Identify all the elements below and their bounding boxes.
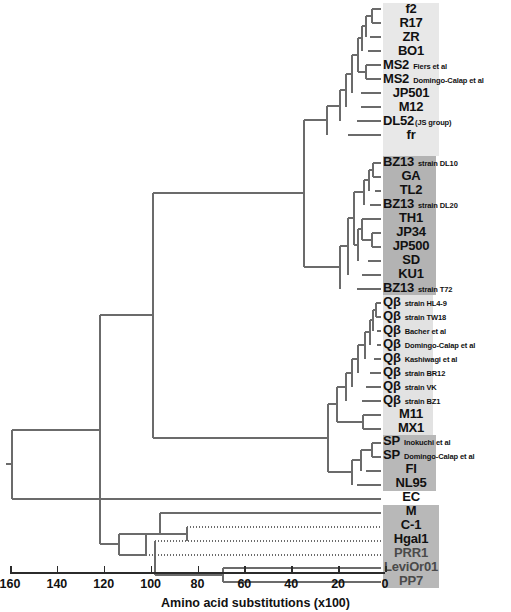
taxon-row: SPDomingo-Calap et al: [383, 448, 475, 462]
taxon-row: M12: [383, 100, 439, 114]
taxon-row: BZ13strain T72: [383, 281, 452, 295]
taxon-row: SPInokuchi et al: [383, 434, 450, 448]
axis-title: Amino acid substitutions (x100): [0, 596, 511, 610]
taxon-row: QβBacher et al: [383, 323, 446, 337]
taxon-row: JP501: [383, 86, 439, 100]
taxon-row: NL95: [383, 476, 439, 490]
taxon-name: MX1: [398, 421, 424, 435]
taxon-name: BZ13: [383, 281, 414, 295]
taxon-row: LeviOr01: [383, 560, 439, 574]
taxon-row: BO1: [383, 44, 439, 58]
axis-tick-label: 40: [284, 577, 298, 591]
taxon-row: M: [383, 504, 439, 518]
taxon-name: PRR1: [394, 546, 428, 560]
axis-tick: [385, 566, 387, 572]
taxon-name: KU1: [398, 267, 423, 281]
taxon-name: JP500: [393, 239, 430, 253]
taxon-name: Qβ: [383, 351, 401, 365]
taxon-name: SD: [402, 253, 420, 267]
taxon-row: M11: [383, 407, 439, 421]
taxon-row: TL2: [383, 183, 439, 197]
taxon-name: NL95: [396, 476, 427, 490]
taxon-row: SD: [383, 253, 439, 267]
axis-tick: [151, 566, 153, 572]
taxon-name: Qβ: [383, 337, 401, 351]
taxon-row: QβKashiwagi et al: [383, 351, 457, 365]
taxon-row: MS2Domingo-Calap et al: [383, 72, 484, 86]
taxon-name: EC: [402, 490, 420, 504]
taxon-name: SP: [383, 448, 400, 462]
taxon-name: BZ13: [383, 197, 414, 211]
taxon-name: M12: [399, 100, 424, 114]
axis-tick-label: 140: [46, 577, 67, 591]
taxon-name: Qβ: [383, 393, 401, 407]
taxon-name: fr: [407, 128, 416, 142]
taxon-row: Qβstrain VK: [383, 379, 437, 393]
taxon-name: ZR: [403, 30, 420, 44]
taxon-name: TL2: [400, 183, 423, 197]
taxon-name: JP501: [393, 86, 430, 100]
taxon-name: R17: [399, 16, 422, 30]
taxon-row: R17: [383, 16, 439, 30]
phylogenetic-tree-figure: f2R17ZRBO1MS2Fiers et alMS2Domingo-Calap…: [0, 0, 511, 612]
taxon-name: PP7: [399, 574, 423, 588]
taxon-name: FI: [405, 462, 416, 476]
taxon-name: BZ13: [383, 155, 414, 169]
taxon-row: ZR: [383, 30, 439, 44]
taxon-row: Qβstrain TW18: [383, 309, 446, 323]
taxon-name: f2: [405, 2, 416, 16]
taxon-row: fr: [383, 128, 439, 142]
axis-tick-label: 80: [191, 577, 205, 591]
taxon-name: GA: [401, 169, 420, 183]
taxon-row: JP34: [383, 225, 439, 239]
taxon-row: Qβstrain BR12: [383, 365, 445, 379]
taxon-row: Qβstrain BZ1: [383, 393, 440, 407]
taxon-row: PP7: [383, 574, 439, 588]
axis-tick-label: 100: [140, 577, 161, 591]
taxon-name: Qβ: [383, 379, 401, 393]
taxon-name: TH1: [399, 211, 423, 225]
taxon-row: C-1: [383, 518, 439, 532]
axis-tick: [57, 566, 59, 572]
axis-tick: [104, 566, 106, 572]
taxon-name: M11: [399, 407, 423, 421]
taxon-row: EC: [383, 490, 439, 504]
taxon-name: M: [406, 504, 417, 518]
axis-tick: [291, 566, 293, 572]
taxon-row: MX1: [383, 421, 439, 435]
axis-tick-label: 160: [0, 577, 20, 591]
taxon-name: JP34: [396, 225, 426, 239]
taxon-row: GA: [383, 169, 439, 183]
taxon-name: Qβ: [383, 365, 401, 379]
taxon-name: MS2: [383, 58, 409, 72]
taxon-name: Qβ: [383, 295, 401, 309]
taxon-name: C-1: [401, 518, 421, 532]
taxon-row: PRR1: [383, 546, 439, 560]
taxon-name: Hgal1: [394, 532, 428, 546]
axis-tick-label: 0: [382, 577, 389, 591]
taxon-row: f2: [383, 2, 439, 16]
taxon-name: DL52: [383, 114, 414, 128]
axis-tick: [198, 566, 200, 572]
taxon-row: TH1: [383, 211, 439, 225]
taxon-row: BZ13strain DL10: [383, 155, 458, 169]
taxon-row: DL52(JS group): [383, 114, 452, 128]
axis-tick: [10, 566, 12, 572]
taxon-name: Qβ: [383, 323, 401, 337]
axis-tick: [244, 566, 246, 572]
taxon-row: Hgal1: [383, 532, 439, 546]
taxon-row: QβDomingo-Calap et al: [383, 337, 475, 351]
taxon-name: Qβ: [383, 309, 401, 323]
taxon-row: Qβstrain HL4-9: [383, 295, 447, 309]
axis-tick-label: 120: [93, 577, 114, 591]
axis-tick-label: 20: [331, 577, 345, 591]
taxon-row: MS2Fiers et al: [383, 58, 447, 72]
taxon-row: KU1: [383, 267, 439, 281]
taxon-name: SP: [383, 434, 400, 448]
axis-tick-label: 60: [237, 577, 251, 591]
taxon-name: MS2: [383, 72, 409, 86]
taxon-name: BO1: [398, 44, 424, 58]
axis-tick: [338, 566, 340, 572]
taxon-row: JP500: [383, 239, 439, 253]
taxon-row: FI: [383, 462, 439, 476]
